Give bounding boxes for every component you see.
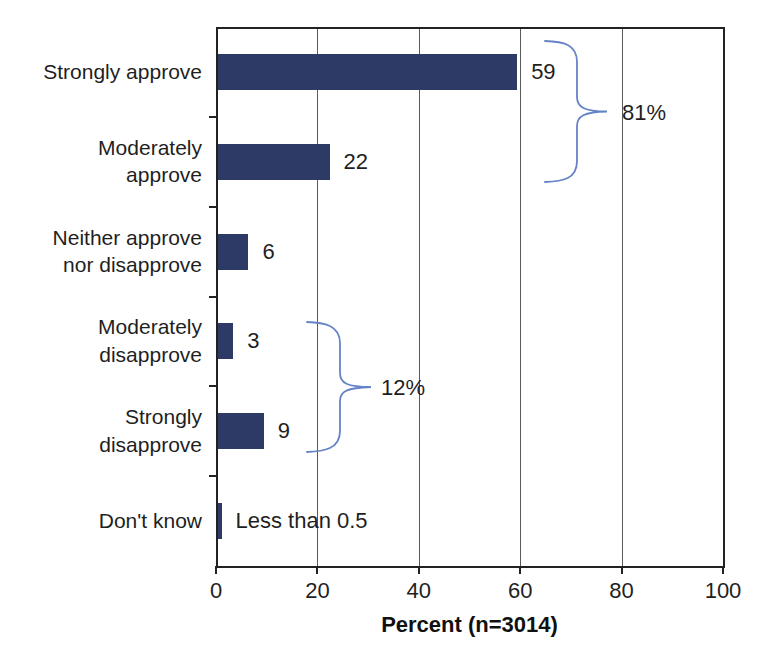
y-axis-tick bbox=[209, 296, 216, 298]
x-axis-tick-label: 60 bbox=[490, 578, 550, 604]
bar bbox=[218, 503, 222, 539]
y-axis-tick bbox=[209, 385, 216, 387]
category-label: Strongly approve bbox=[0, 58, 202, 86]
annotation-12-percent: 12% bbox=[381, 375, 425, 401]
y-axis-tick bbox=[209, 206, 216, 208]
category-label: Strongly disapprove bbox=[0, 404, 202, 459]
bar bbox=[218, 323, 233, 359]
x-axis-tick-label: 40 bbox=[389, 578, 449, 604]
x-axis-tick-label: 20 bbox=[287, 578, 347, 604]
bar bbox=[218, 413, 264, 449]
bar-value-label: 59 bbox=[531, 59, 555, 85]
bar bbox=[218, 144, 330, 180]
category-label: Moderately disapprove bbox=[0, 314, 202, 369]
x-axis-tick-label: 100 bbox=[693, 578, 753, 604]
category-label: Don't know bbox=[0, 507, 202, 535]
y-axis-tick bbox=[209, 475, 216, 477]
x-axis-title: Percent (n=3014) bbox=[216, 612, 723, 638]
bar-value-label: 9 bbox=[278, 418, 290, 444]
category-label: Moderately approve bbox=[0, 134, 202, 189]
bar-value-label: 22 bbox=[344, 149, 368, 175]
annotation-81-percent: 81% bbox=[622, 100, 666, 126]
bar-value-label: Less than 0.5 bbox=[236, 508, 368, 534]
bar-value-label: 6 bbox=[262, 239, 274, 265]
x-axis-tick-label: 0 bbox=[186, 578, 246, 604]
bar-value-label: 3 bbox=[247, 328, 259, 354]
y-axis-tick bbox=[209, 116, 216, 118]
x-axis-tick-label: 80 bbox=[592, 578, 652, 604]
category-label: Neither approve nor disapprove bbox=[0, 224, 202, 279]
bar bbox=[218, 234, 248, 270]
bar bbox=[218, 54, 517, 90]
approval-bar-chart: 020406080100Strongly approve59Moderately… bbox=[0, 0, 759, 668]
